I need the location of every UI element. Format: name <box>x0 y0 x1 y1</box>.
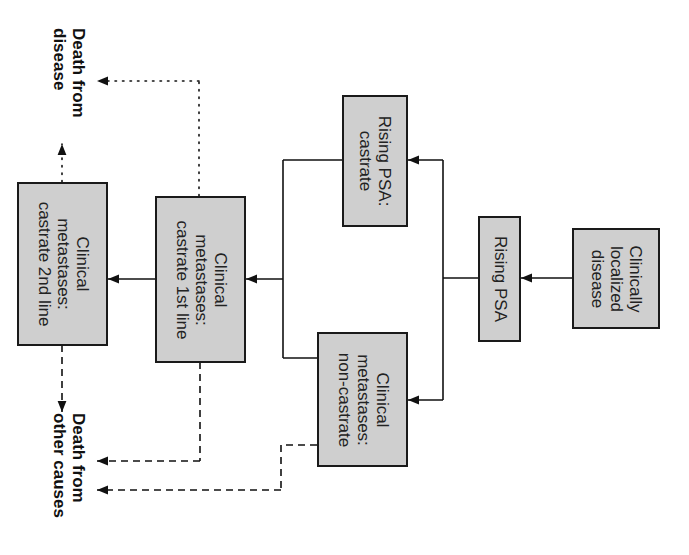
label-line: non-castrate <box>334 352 353 447</box>
label-line: castrate 1st line <box>172 220 191 339</box>
label-line: Clinically <box>626 245 645 312</box>
node-clinical-metastases-non-castrate: Clinical metastases: non-castrate <box>317 332 408 467</box>
label-line: other causes <box>50 413 69 518</box>
label-line: Death from <box>69 413 88 518</box>
label-line: localized <box>607 245 626 312</box>
label-line: Rising PSA: <box>375 116 394 207</box>
node-label: Clinically localized disease <box>588 245 645 312</box>
label-line: metastases: <box>53 202 72 327</box>
label-line: metastases: <box>353 352 372 447</box>
label-line: disease <box>50 28 69 118</box>
node-label: Clinical metastases: castrate 1st line <box>172 220 229 339</box>
label-line: castrate 2nd line <box>34 202 53 327</box>
label-line: Clinical <box>372 352 391 447</box>
label-line: Clinical <box>210 220 229 339</box>
label-line: metastases: <box>191 220 210 339</box>
node-clinically-localized-disease: Clinically localized disease <box>572 228 660 329</box>
node-clinical-metastases-castrate-2nd-line: Clinical metastases: castrate 2nd line <box>17 182 108 346</box>
node-label: Rising PSA: castrate <box>356 116 394 207</box>
node-rising-psa-castrate: Rising PSA: castrate <box>342 95 408 227</box>
node-rising-psa: Rising PSA <box>478 216 521 342</box>
node-label: Rising PSA <box>490 236 509 322</box>
terminal-death-from-disease: Death from disease <box>50 28 88 118</box>
label-line: disease <box>588 245 607 312</box>
node-label: Clinical metastases: non-castrate <box>334 352 391 447</box>
terminal-death-from-other-causes: Death from other causes <box>50 413 88 518</box>
label-line: Death from <box>69 28 88 118</box>
label-line: castrate <box>356 116 375 207</box>
node-clinical-metastases-castrate-1st-line: Clinical metastases: castrate 1st line <box>155 196 246 363</box>
label-line: Rising PSA <box>490 236 509 322</box>
label-line: Clinical <box>72 202 91 327</box>
node-label: Clinical metastases: castrate 2nd line <box>34 202 91 327</box>
